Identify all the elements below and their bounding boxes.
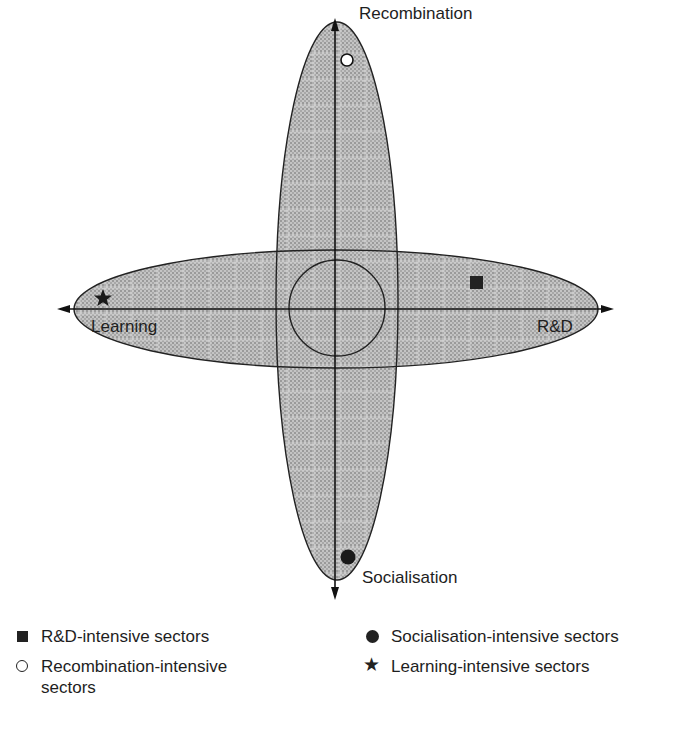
filled-circle-icon — [361, 626, 391, 647]
knowledge-modes-diagram: Recombination Learning R&D Socialisation — [0, 0, 700, 610]
legend: R&D-intensive sectors Recombination-inte… — [0, 612, 700, 730]
square-icon — [11, 626, 41, 647]
rd-marker-square-icon — [470, 276, 483, 289]
axis-label-rd: R&D — [537, 317, 573, 337]
arrow-right-icon — [601, 305, 614, 313]
legend-item-recombination: Recombination-intensive sectors — [11, 656, 281, 698]
star-icon: ★ — [361, 656, 391, 677]
ellipse-fills — [74, 22, 598, 580]
legend-item-rd: R&D-intensive sectors — [11, 626, 209, 647]
arrow-left-icon — [57, 305, 70, 313]
socialisation-marker-filled-circle-icon — [341, 550, 356, 565]
axis-label-learning: Learning — [91, 317, 157, 337]
axis-label-socialisation: Socialisation — [362, 568, 457, 588]
legend-label: Socialisation-intensive sectors — [391, 626, 619, 647]
recombination-marker-open-circle-icon — [341, 54, 353, 66]
legend-label: Recombination-intensive sectors — [41, 656, 281, 698]
legend-item-socialisation: Socialisation-intensive sectors — [361, 626, 619, 647]
legend-label: R&D-intensive sectors — [41, 626, 209, 647]
diagram-canvas — [0, 0, 700, 610]
legend-label: Learning-intensive sectors — [391, 656, 589, 677]
legend-item-learning: ★ Learning-intensive sectors — [361, 656, 589, 677]
open-circle-icon — [11, 656, 41, 677]
arrow-down-icon — [331, 587, 339, 600]
axis-label-recombination: Recombination — [359, 4, 472, 24]
